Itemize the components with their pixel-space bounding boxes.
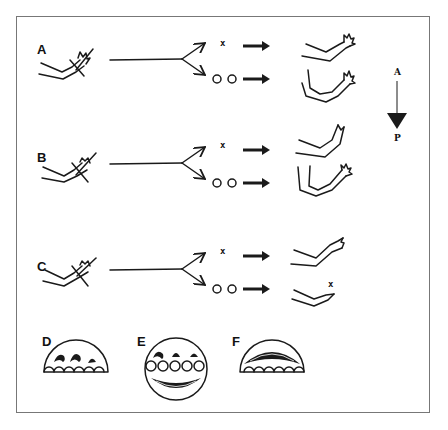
limb-with-cut-icon bbox=[42, 153, 96, 182]
circle-marker bbox=[213, 179, 221, 187]
result-limb-reduced-icon bbox=[292, 290, 334, 306]
connector-line bbox=[110, 163, 182, 164]
axis-label-posterior: P bbox=[394, 133, 401, 143]
marker-x: x bbox=[220, 246, 226, 256]
marker-x: x bbox=[220, 140, 226, 150]
thick-arrow bbox=[243, 145, 270, 155]
circle-marker bbox=[228, 285, 236, 293]
row-a: A x bbox=[37, 34, 355, 102]
circle-marker bbox=[228, 179, 236, 187]
limb-with-cut-icon bbox=[39, 49, 93, 79]
circle-marker bbox=[213, 75, 221, 83]
row-label: C bbox=[37, 259, 47, 274]
cross-section-e: E bbox=[137, 334, 207, 400]
arrowhead-down-icon bbox=[387, 113, 407, 129]
row-c: C x x bbox=[37, 238, 344, 306]
row-label: B bbox=[37, 150, 46, 165]
anterior-posterior-axis: A P bbox=[387, 67, 407, 143]
axis-label-anterior: A bbox=[393, 67, 402, 77]
thick-arrow bbox=[243, 284, 270, 294]
row-label: A bbox=[37, 42, 47, 57]
circle-marker bbox=[228, 75, 236, 83]
circle-marker bbox=[213, 285, 221, 293]
result-limb-normal-icon bbox=[302, 34, 355, 61]
section-label: E bbox=[137, 334, 146, 349]
section-label: D bbox=[42, 334, 51, 349]
result-limb-duplicated-icon bbox=[298, 164, 352, 196]
thick-arrow bbox=[243, 251, 270, 261]
section-label: F bbox=[232, 334, 240, 349]
diagram-canvas: A x bbox=[0, 0, 448, 430]
branch-down-arrow bbox=[182, 269, 205, 285]
marker-x: x bbox=[220, 38, 226, 48]
cross-section-f: F bbox=[232, 334, 304, 372]
limb-with-cut-icon bbox=[43, 258, 96, 286]
thick-arrow bbox=[243, 178, 270, 188]
connector-line bbox=[110, 269, 182, 270]
result-limb-truncated-icon bbox=[296, 125, 344, 157]
branch-up-arrow bbox=[182, 147, 205, 163]
thick-arrow bbox=[243, 41, 270, 51]
thick-arrow bbox=[243, 74, 270, 84]
cross-section-d: D bbox=[42, 334, 108, 372]
connector-line bbox=[110, 59, 182, 60]
branch-up-arrow bbox=[182, 43, 205, 59]
branch-up-arrow bbox=[182, 253, 205, 269]
branch-down-arrow bbox=[182, 163, 205, 179]
row-b: B x bbox=[37, 125, 352, 196]
result-limb-normal-icon bbox=[291, 238, 344, 266]
result-marker-x: x bbox=[328, 279, 334, 289]
result-limb-duplicated-icon bbox=[302, 70, 355, 102]
branch-down-arrow bbox=[182, 59, 205, 75]
